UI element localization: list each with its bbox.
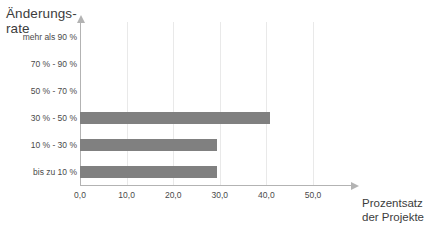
category-label: bis zu 10 % [0, 167, 77, 177]
x-tick-label: 50,0 [293, 190, 333, 200]
x-axis-line [80, 185, 352, 186]
gridline [266, 22, 267, 185]
bar-chart: Änderungs- rate mehr als 90 %70 % - 90 %… [0, 0, 424, 238]
category-label: 10 % - 30 % [0, 140, 77, 150]
gridline [127, 22, 128, 185]
category-label: 70 % - 90 % [0, 59, 77, 69]
category-label: 50 % - 70 % [0, 86, 77, 96]
x-axis-title: Prozentsatz der Projekte [362, 196, 424, 224]
gridline [220, 22, 221, 185]
x-tick-label: 40,0 [246, 190, 286, 200]
gridline [313, 22, 314, 185]
gridline [173, 22, 174, 185]
x-tick-label: 30,0 [200, 190, 240, 200]
category-label: mehr als 90 % [0, 32, 77, 42]
plot-area [80, 22, 355, 185]
x-tick-label: 20,0 [153, 190, 193, 200]
bar [80, 139, 217, 151]
x-tick-label: 10,0 [107, 190, 147, 200]
category-label: 30 % - 50 % [0, 113, 77, 123]
bar [80, 166, 217, 178]
bar [80, 112, 270, 124]
x-tick-label: 0,0 [60, 190, 100, 200]
